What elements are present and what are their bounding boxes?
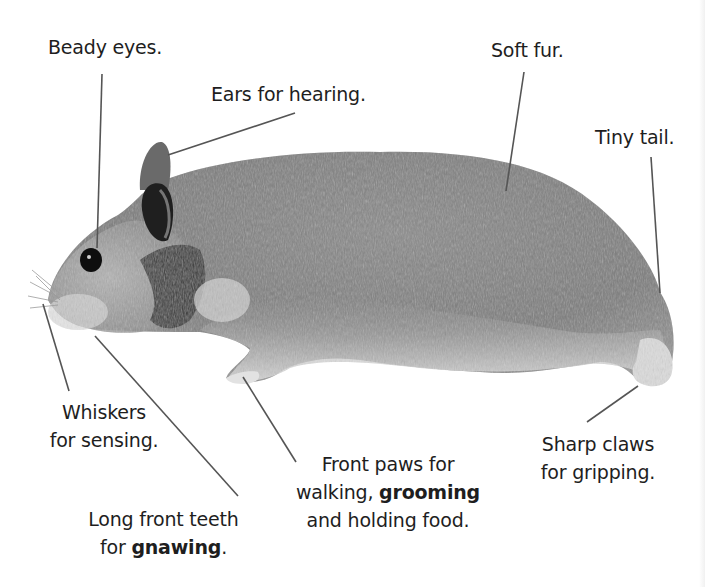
label-teeth-post: . [221, 536, 227, 558]
label-paws: Front paws for walking, grooming and hol… [282, 450, 494, 534]
label-eyes: Beady eyes. [48, 33, 162, 61]
label-teeth-pre: for [100, 536, 131, 558]
label-ears-text: Ears for hearing. [211, 83, 366, 105]
page-edge [699, 0, 705, 587]
label-fur-text: Soft fur. [491, 39, 564, 61]
leader-eyes [97, 74, 102, 248]
label-eyes-text: Beady eyes. [48, 36, 162, 58]
label-teeth-line2: for gnawing. [76, 533, 251, 561]
label-teeth-line1: Long front teeth [76, 505, 251, 533]
label-paws-line2: walking, grooming [282, 478, 494, 506]
label-claws-line1: Sharp claws [528, 430, 668, 458]
label-claws: Sharp claws for gripping. [528, 430, 668, 486]
label-paws-line1: Front paws for [282, 450, 494, 478]
label-paws-bold: grooming [379, 481, 480, 503]
label-whiskers: Whiskers for sensing. [44, 398, 164, 454]
hamster-ear-back [140, 142, 171, 190]
label-claws-line2: for gripping. [528, 458, 668, 486]
label-fur: Soft fur. [491, 36, 564, 64]
label-tail: Tiny tail. [595, 123, 674, 151]
label-ears: Ears for hearing. [211, 80, 366, 108]
label-teeth-bold: gnawing [131, 536, 221, 558]
label-paws-line3: and holding food. [282, 506, 494, 534]
label-paws-pre: walking, [296, 481, 379, 503]
hamster-eye [80, 248, 102, 272]
label-whiskers-line1: Whiskers [44, 398, 164, 426]
label-tail-text: Tiny tail. [595, 126, 674, 148]
hamster-diagram: Beady eyes. Ears for hearing. Soft fur. … [0, 0, 705, 587]
leader-claws [587, 386, 638, 422]
leader-ears [168, 113, 295, 155]
label-whiskers-line2: for sensing. [44, 426, 164, 454]
label-teeth: Long front teeth for gnawing. [76, 505, 251, 561]
